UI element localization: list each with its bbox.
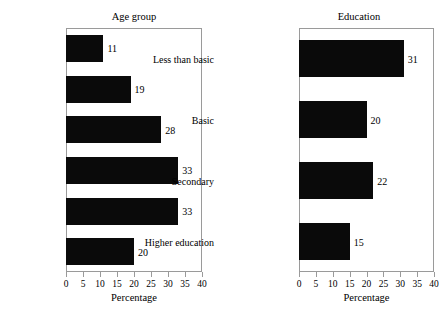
bar-row: 31 <box>299 40 434 77</box>
category-label: Basic <box>84 114 214 125</box>
bar <box>66 76 131 103</box>
x-axis-tick <box>83 272 84 277</box>
x-axis-title-education: Percentage <box>299 292 434 304</box>
bar-value-label: 28 <box>161 124 175 135</box>
x-axis-tick-label: 25 <box>146 278 156 290</box>
bar-value-label: 19 <box>131 84 145 95</box>
x-axis-tick-label: 0 <box>64 278 69 290</box>
x-axis-tick-label: 30 <box>163 278 173 290</box>
x-axis-tick <box>333 272 334 277</box>
x-axis-tick-label: 15 <box>112 278 122 290</box>
bar-row: 15 <box>299 223 434 260</box>
x-axis-tick <box>400 272 401 277</box>
x-axis-tick <box>350 272 351 277</box>
x-axis-tick <box>202 272 203 277</box>
x-axis-ticks-education <box>299 272 434 277</box>
x-axis-tick-label: 5 <box>314 278 319 290</box>
bar <box>66 198 178 225</box>
chart-title-age-group: Age group <box>66 11 202 23</box>
chart-panel-education: Education 31202215 Less than basicBasicS… <box>215 0 435 320</box>
x-axis-tick-label: 5 <box>81 278 86 290</box>
bar-row: 20 <box>299 101 434 138</box>
bar <box>299 162 373 199</box>
bar-value-label: 22 <box>373 175 387 186</box>
x-axis-tick-label: 15 <box>345 278 355 290</box>
x-axis-tick <box>66 272 67 277</box>
x-axis-tick-label: 30 <box>396 278 406 290</box>
x-axis-tick <box>151 272 152 277</box>
chart-panel-age-group: Age group 111928333320 Ages 15–19Ages 20… <box>0 0 215 320</box>
bar-row: 33 <box>66 198 202 225</box>
bar-value-label: 15 <box>350 236 364 247</box>
bar-row: 22 <box>299 162 434 199</box>
x-axis-tick <box>383 272 384 277</box>
chart-title-education: Education <box>299 11 419 23</box>
x-axis-tick-labels-education: 0510152025303540 <box>299 278 434 290</box>
x-axis-tick-label: 40 <box>197 278 207 290</box>
x-axis-tick <box>185 272 186 277</box>
x-axis-tick <box>367 272 368 277</box>
bar <box>299 223 350 260</box>
x-axis-ticks-age-group <box>66 272 202 277</box>
x-axis-tick-label: 35 <box>180 278 190 290</box>
bar <box>299 40 404 77</box>
x-axis-tick <box>100 272 101 277</box>
x-axis-tick-label: 10 <box>95 278 105 290</box>
x-axis-tick <box>417 272 418 277</box>
category-label: Secondary <box>84 175 214 186</box>
bar-value-label: 20 <box>134 246 148 257</box>
x-axis-tick <box>316 272 317 277</box>
x-axis-title-age-group: Percentage <box>66 292 202 304</box>
x-axis-tick <box>434 272 435 277</box>
x-axis-tick <box>299 272 300 277</box>
x-axis-tick-label: 20 <box>129 278 139 290</box>
x-axis-tick-label: 40 <box>429 278 439 290</box>
category-label: Higher education <box>84 236 214 247</box>
bar <box>299 101 367 138</box>
bar-row: 19 <box>66 76 202 103</box>
x-axis-tick <box>117 272 118 277</box>
x-axis-tick-label: 35 <box>412 278 422 290</box>
category-label: Less than basic <box>84 53 214 64</box>
bar-value-label: 20 <box>367 114 381 125</box>
x-axis-tick-label: 0 <box>297 278 302 290</box>
x-axis-tick <box>134 272 135 277</box>
x-axis-tick-label: 20 <box>362 278 372 290</box>
bar-value-label: 31 <box>404 53 418 64</box>
x-axis-tick-label: 10 <box>328 278 338 290</box>
bar-value-label: 33 <box>178 206 192 217</box>
x-axis-tick <box>168 272 169 277</box>
x-axis-tick-label: 25 <box>379 278 389 290</box>
x-axis-tick-labels-age-group: 0510152025303540 <box>66 278 202 290</box>
